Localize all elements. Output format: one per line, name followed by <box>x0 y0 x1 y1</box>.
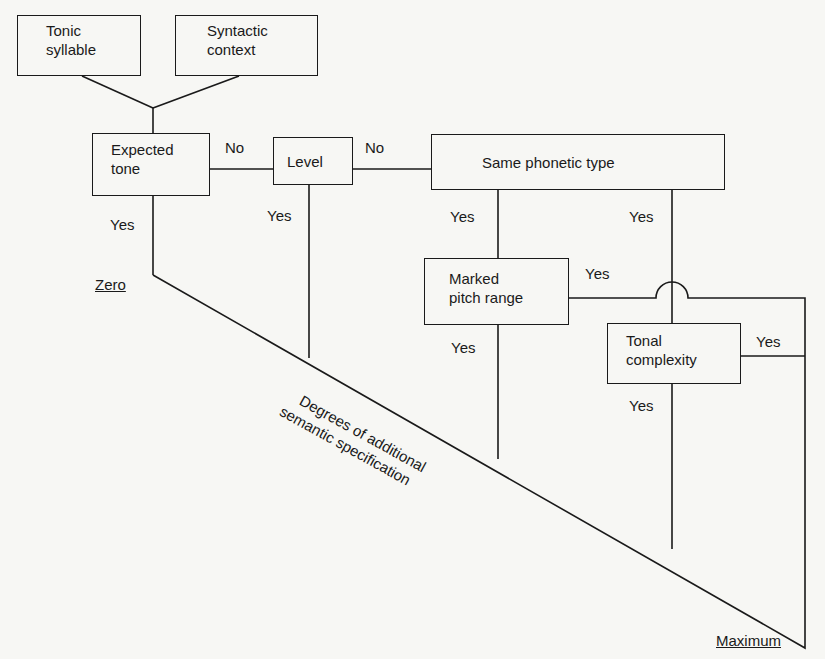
yes-label-same-left: Yes <box>450 208 474 225</box>
tonal-complexity-line2: complexity <box>626 350 740 369</box>
no-label-expected-level: No <box>225 139 244 156</box>
syntactic-context-line2: context <box>207 40 317 59</box>
expected-tone-line1: Expected <box>111 140 209 159</box>
maximum-label: Maximum <box>716 632 781 649</box>
tonal-complexity-line1: Tonal <box>626 331 740 350</box>
yes-label-marked-right: Yes <box>585 265 609 282</box>
no-label-level-same: No <box>365 139 384 156</box>
yes-label-marked-down: Yes <box>451 339 475 356</box>
tonal-complexity-box: Tonal complexity <box>607 323 741 384</box>
tonic-syllable-line2: syllable <box>46 40 140 59</box>
yes-label-level: Yes <box>267 207 291 224</box>
yes-label-same-right: Yes <box>629 208 653 225</box>
same-phonetic-type-label: Same phonetic type <box>482 153 724 172</box>
expected-tone-line2: tone <box>111 159 209 178</box>
yes-label-tonal-right: Yes <box>756 333 780 350</box>
tonic-syllable-line1: Tonic <box>46 21 140 40</box>
yes-label-expected: Yes <box>110 216 134 233</box>
same-phonetic-type-box: Same phonetic type <box>431 134 725 190</box>
syntactic-context-line1: Syntactic <box>207 21 317 40</box>
level-box: Level <box>273 137 353 185</box>
marked-pitch-range-line1: Marked <box>449 269 568 288</box>
yes-label-tonal-down: Yes <box>629 397 653 414</box>
marked-pitch-range-line2: pitch range <box>449 288 568 307</box>
tonic-syllable-box: Tonic syllable <box>17 15 141 76</box>
level-label: Level <box>287 152 352 171</box>
expected-tone-box: Expected tone <box>92 133 210 196</box>
marked-pitch-range-box: Marked pitch range <box>424 258 569 325</box>
zero-label: Zero <box>95 276 126 293</box>
syntactic-context-box: Syntactic context <box>175 15 318 76</box>
